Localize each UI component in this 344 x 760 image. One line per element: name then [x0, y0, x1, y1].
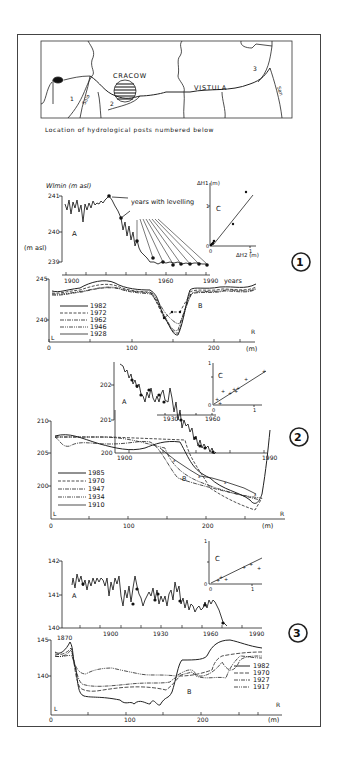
- panel-3-b-right: R: [276, 701, 280, 708]
- svg-text:+: +: [242, 564, 246, 570]
- panel-1-c-xlabel: ΔH2 (m): [236, 252, 259, 258]
- panel-1-b-xunit: (m): [246, 345, 257, 353]
- panel-1-levelling-note: years with levelling: [131, 198, 194, 206]
- panel-2-b-xtick: 200: [202, 522, 214, 529]
- panel-3-b-ytick: 140: [37, 672, 49, 679]
- post-1-number: 1: [70, 95, 74, 102]
- panel-2-c-ytick: 1: [208, 360, 211, 366]
- panel-2-c-ytick: 0: [208, 402, 211, 408]
- panel-3-a-xtick: 1900: [103, 630, 118, 637]
- panel-2-a-ytick: 201: [100, 416, 112, 423]
- panel-3-b-left: L: [54, 705, 58, 712]
- panel-2-b-xtick: 0: [49, 522, 53, 529]
- svg-text:x: x: [198, 474, 201, 479]
- panel-1-b-ylabel: (m asl): [24, 244, 47, 252]
- panel-3-a-label: A: [72, 592, 77, 600]
- panel-1-c-label: C: [216, 205, 221, 213]
- panel-2-a-ytick: 200: [101, 449, 113, 456]
- panel-1-b-xtick: 0: [47, 344, 51, 351]
- panel-1-a-label: A: [72, 230, 77, 238]
- post-2-number: 2: [110, 100, 114, 107]
- panel-3: +++ +++ A 142 141 140 1870 1900 1930: [37, 538, 307, 724]
- svg-text:+: +: [224, 576, 228, 582]
- panel-2-b-ytick: 205: [37, 449, 49, 456]
- panel-2-c-xtick: 1: [253, 407, 256, 413]
- panel-1-a-xtick: 1990: [203, 277, 218, 284]
- panel-3-c-ytick: 0: [204, 581, 207, 587]
- panel-3-a-ytick: 140: [48, 624, 60, 631]
- panel-2-legend-item: 1910: [88, 501, 105, 509]
- svg-text:+: +: [236, 385, 240, 391]
- panel-2-a-xtick: 1990: [262, 454, 277, 461]
- panel-3-a-ytick: 142: [48, 557, 60, 564]
- svg-text:x: x: [254, 492, 257, 497]
- panel-1-a-ytick: 239: [48, 258, 60, 265]
- location-map: [41, 41, 292, 118]
- map-caption: Location of hydrological posts numbered …: [45, 126, 214, 134]
- panel-3-badge: 3: [293, 627, 301, 640]
- panel-1-a-xtick: 1900: [64, 277, 79, 284]
- panel-1-b-left: L: [51, 334, 55, 341]
- panel-2-badge: 2: [294, 431, 302, 444]
- panel-2-b-ytick: 200: [37, 482, 49, 489]
- svg-text:+: +: [219, 574, 223, 580]
- panel-2-b-xunit: (m): [262, 522, 273, 530]
- panel-1-c-xtick: 1: [249, 248, 252, 254]
- svg-text:+: +: [244, 376, 248, 382]
- panel-1-badge: 1: [296, 256, 304, 269]
- panel-3-b-ytick: 145: [37, 636, 49, 643]
- panel-2-legend-item: 1947: [88, 485, 105, 493]
- panel-1-a-xtick: 1960: [158, 277, 173, 284]
- panel-2-a-xtick: 1900: [117, 454, 132, 461]
- panel-3-c-ytick: 1: [204, 538, 207, 544]
- panel-2-a-xtick: 1930: [163, 415, 178, 422]
- svg-text:+: +: [218, 400, 222, 406]
- panel-1-legend-item: 1928: [90, 330, 107, 338]
- map-label-vistula: VISTULA: [194, 84, 227, 92]
- panel-2-a-ytick: 202: [100, 381, 112, 388]
- panel-2-legend-item: 1970: [88, 477, 105, 485]
- panel-2-b-label: B: [182, 475, 186, 483]
- panel-1-a-ytick: 241: [48, 192, 60, 199]
- panel-1-c-ytick: 1: [206, 203, 209, 209]
- panel-2-legend-item: 1985: [88, 469, 105, 477]
- panel-1-a-xunit: years: [224, 277, 243, 285]
- panel-3-c-label: C: [215, 555, 220, 563]
- panel-1-c-xtick: 0: [209, 248, 212, 254]
- panel-2-c-xtick: 0: [212, 407, 215, 413]
- panel-3-a-xtick: 1930: [153, 630, 168, 637]
- svg-text:+: +: [249, 561, 253, 567]
- panel-3-c-xtick: 0: [209, 586, 212, 592]
- panel-2-b-ytick: 210: [37, 417, 49, 424]
- panel-1-b-ytick: 240: [36, 316, 48, 323]
- panel-1-b-ytick: 245: [36, 275, 48, 282]
- panel-2-legend-item: 1934: [88, 493, 105, 501]
- panel-3-c-xtick: 1: [251, 586, 254, 592]
- svg-text:+: +: [221, 388, 225, 394]
- panel-2-b-xtick: 100: [123, 522, 135, 529]
- svg-text:+: +: [257, 565, 261, 571]
- panel-3-a-ytick: 141: [48, 591, 60, 598]
- panel-1-b-xtick: 200: [208, 344, 220, 351]
- map-label-sola: Sola: [81, 93, 91, 105]
- panel-3-b-xtick: 0: [49, 716, 53, 723]
- figure: CRACOW VISTULA Sola San 1 2 3 Location o…: [0, 0, 344, 760]
- panel-1-b-right: R: [251, 328, 255, 335]
- panel-1-a-ylabel: Wlmin (m asl): [46, 182, 91, 190]
- panel-3-legend-item: 1917: [253, 683, 270, 691]
- panel-2-a-xtick: 1960: [205, 415, 220, 422]
- panel-2-b-left: L: [53, 510, 57, 517]
- panel-3-b-label: B: [187, 688, 191, 696]
- svg-text:+: +: [262, 368, 266, 374]
- panel-2-c-label: C: [218, 372, 223, 380]
- panel-2: +++ +++ +++ xxxx A 202 2: [37, 360, 308, 530]
- map-label-cracow: CRACOW: [113, 72, 147, 80]
- panel-3-a-xtick: 1870: [57, 634, 72, 641]
- panel-3-b-xtick: 100: [124, 716, 136, 723]
- panel-3-b-xtick: 200: [197, 716, 209, 723]
- panel-3-a-xtick: 1960: [203, 630, 218, 637]
- panel-2-b-right: R: [280, 510, 284, 517]
- panel-2-a-label: A: [122, 398, 127, 406]
- post-3-number: 3: [253, 65, 257, 72]
- panel-3-a-xtick: 1990: [249, 630, 264, 637]
